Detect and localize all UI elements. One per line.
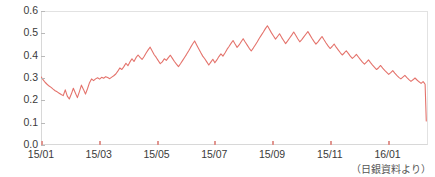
y-tick-mark: [41, 78, 45, 79]
x-tick-label: 16/01: [366, 148, 410, 160]
y-tick-label: 0.1: [2, 117, 38, 127]
x-tick-mark: [214, 141, 216, 145]
chart-figure: 0.00.10.20.30.40.50.6 （日銀資料より） 15/0115/0…: [0, 0, 435, 177]
x-tick-mark: [330, 141, 332, 145]
y-tick-mark: [41, 56, 45, 57]
y-tick-label: 0.4: [2, 50, 38, 60]
x-tick-mark: [272, 141, 274, 145]
x-tick-label: 15/01: [19, 148, 63, 160]
x-tick-mark: [388, 141, 390, 145]
x-tick-label: 15/11: [308, 148, 352, 160]
x-tick-label: 15/07: [192, 148, 236, 160]
y-tick-mark: [41, 100, 45, 101]
x-tick-label: 15/05: [135, 148, 179, 160]
x-tick-label: 15/03: [77, 148, 121, 160]
y-tick-mark: [41, 123, 45, 124]
y-tick-mark: [41, 33, 45, 34]
clipped-title-strip: [0, 0, 435, 3]
x-tick-mark: [41, 141, 43, 145]
x-tick-mark: [157, 141, 159, 145]
y-tick-label: 0.6: [2, 5, 38, 15]
x-tick-mark: [99, 141, 101, 145]
y-tick-label: 0.2: [2, 94, 38, 104]
y-tick-label: 0.5: [2, 27, 38, 37]
x-tick-label: 15/09: [250, 148, 294, 160]
series-line-rate: [41, 26, 426, 121]
line-chart-canvas: [41, 11, 428, 145]
y-tick-mark: [41, 145, 45, 146]
y-tick-label: 0.3: [2, 72, 38, 82]
y-tick-mark: [41, 11, 45, 12]
source-note: （日銀資料より）: [351, 161, 431, 176]
